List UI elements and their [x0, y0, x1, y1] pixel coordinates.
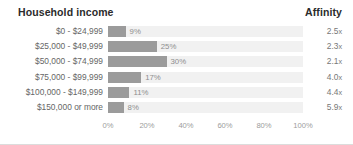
x-axis-tick-label: 40% — [178, 120, 193, 132]
table-row: $100,000 - $149,99911%4.4x — [0, 87, 353, 98]
row-category-label: $0 - $24,999 — [0, 26, 103, 37]
row-category-label: $75,000 - $99,999 — [0, 72, 103, 83]
bar — [108, 87, 129, 98]
affinity-value: 2.1x — [327, 56, 342, 67]
bar-value-label: 11% — [133, 87, 148, 98]
affinity-value: 2.5x — [327, 26, 342, 37]
table-row: $50,000 - $74,99930%2.1x — [0, 56, 353, 67]
page-title: Household income — [18, 6, 114, 18]
bar — [108, 56, 167, 67]
bar-track: 9% — [108, 26, 303, 37]
x-axis-tick-label: 60% — [217, 120, 232, 132]
bar-track: 25% — [108, 41, 303, 52]
bar — [108, 41, 157, 52]
x-axis-tick-label: 0% — [103, 120, 114, 132]
table-row: $75,000 - $99,99917%4.0x — [0, 72, 353, 83]
affinity-value: 4.4x — [327, 87, 342, 98]
bar-value-label: 17% — [145, 72, 161, 83]
row-category-label: $50,000 - $74,999 — [0, 56, 103, 67]
bar-track: 11% — [108, 87, 303, 98]
x-axis: 0%20%40%60%80%100% — [0, 120, 353, 134]
table-row: $0 - $24,9999%2.5x — [0, 26, 353, 37]
row-category-label: $150,000 or more — [0, 102, 103, 113]
affinity-value: 2.3x — [327, 41, 342, 52]
household-income-affinity-chart: Household income Affinity $0 - $24,9999%… — [0, 0, 353, 145]
bar — [108, 102, 124, 113]
bar-track: 17% — [108, 72, 303, 83]
bar-chart-plot: $0 - $24,9999%2.5x$25,000 - $49,99925%2.… — [0, 26, 353, 118]
bar-value-label: 9% — [130, 26, 141, 37]
affinity-value: 5.9x — [327, 102, 342, 113]
bar — [108, 26, 126, 37]
bar-value-label: 30% — [171, 56, 187, 67]
row-category-label: $100,000 - $149,999 — [0, 87, 103, 98]
bar — [108, 72, 141, 83]
x-axis-tick-label: 20% — [139, 120, 154, 132]
table-row: $150,000 or more8%5.9x — [0, 102, 353, 113]
table-row: $25,000 - $49,99925%2.3x — [0, 41, 353, 52]
affinity-column-header: Affinity — [305, 6, 342, 18]
x-axis-tick-label: 100% — [293, 120, 312, 132]
bar-track: 8% — [108, 102, 303, 113]
chart-header: Household income Affinity — [0, 6, 353, 24]
bar-value-label: 25% — [161, 41, 177, 52]
affinity-value: 4.0x — [327, 72, 342, 83]
x-axis-tick-label: 80% — [256, 120, 271, 132]
bar-track: 30% — [108, 56, 303, 67]
row-category-label: $25,000 - $49,999 — [0, 41, 103, 52]
bar-value-label: 8% — [128, 102, 139, 113]
